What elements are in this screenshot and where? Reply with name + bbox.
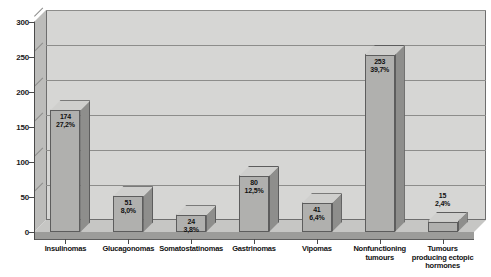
bar — [239, 166, 279, 232]
y-axis-tick-label: 200 — [3, 88, 29, 97]
x-axis-category-label: Tumoursproducing ectopichormones — [405, 245, 480, 271]
bar — [113, 186, 153, 232]
x-axis-category-label-line: hormones — [405, 262, 480, 271]
bar — [428, 212, 468, 233]
y-axis-tick-label: 250 — [3, 53, 29, 62]
y-axis-tick-label: 0 — [3, 228, 29, 237]
bar-side-face — [269, 166, 279, 232]
bar-front-face — [428, 222, 458, 233]
y-axis-line — [34, 22, 35, 240]
bar-front-face — [239, 176, 269, 232]
y-axis-tick-label: 150 — [3, 123, 29, 132]
gridline — [46, 10, 486, 11]
gridline — [46, 115, 486, 116]
bar-front-face — [302, 203, 332, 232]
bar-front-face — [113, 196, 143, 232]
bar — [365, 45, 405, 232]
bar-chart: 050100150200250300 17427,2%518,0%243,8%8… — [0, 0, 491, 277]
gridline — [46, 45, 486, 46]
y-axis-tick-label: 50 — [3, 193, 29, 202]
bar-side-face — [80, 100, 90, 232]
gridline — [46, 150, 486, 151]
y-axis-tick-label: 300 — [3, 18, 29, 27]
bar-front-face — [365, 55, 395, 232]
bar — [50, 100, 90, 232]
bar — [176, 205, 216, 232]
bar-front-face — [50, 110, 80, 232]
bar — [302, 193, 342, 232]
bar-side-face — [395, 45, 405, 232]
gridline — [46, 80, 486, 81]
bar-front-face — [176, 215, 206, 232]
y-axis-tick-label: 100 — [3, 158, 29, 167]
